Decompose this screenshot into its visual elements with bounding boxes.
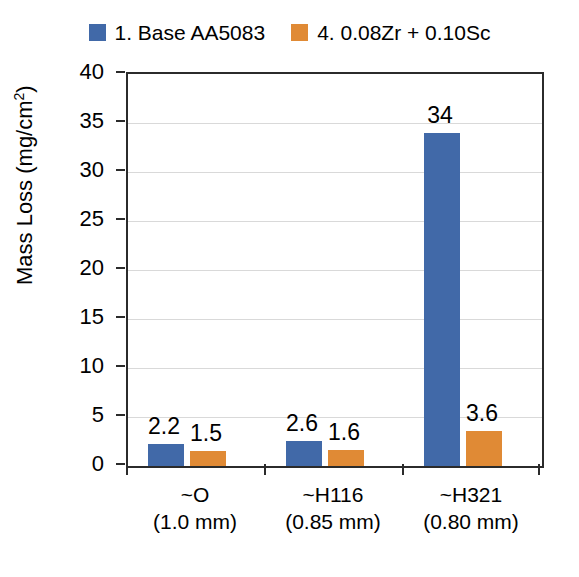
y-tick-mark [116,169,125,171]
y-tick-mark [116,463,125,465]
bar [148,444,184,466]
gridline [128,221,542,222]
y-tick-label: 0 [56,453,104,475]
x-axis-categories: ~O(1.0 mm)~H116(0.85 mm)~H321(0.80 mm) [126,481,540,535]
y-tick-label: 30 [56,159,104,181]
gridline [128,319,542,320]
x-category-name: ~O [126,481,264,508]
y-tick-label: 35 [56,110,104,132]
y-axis-title-tail: ) [12,85,37,92]
x-category-label: ~H116(0.85 mm) [264,481,402,535]
gridline [128,368,542,369]
plot-area [126,72,544,468]
y-tick-mark [116,218,125,220]
y-tick-label: 20 [56,257,104,279]
y-tick-mark [116,267,125,269]
gridline [128,270,542,271]
x-category-label: ~H321(0.80 mm) [402,481,540,535]
y-tick-mark [116,414,125,416]
legend-swatch-icon-series-0 [89,24,106,41]
bar-chart: 1. Base AA5083 4. 0.08Zr + 0.10Sc Mass L… [0,0,579,577]
legend-label-series-0: 1. Base AA5083 [115,22,266,43]
y-axis-title-superscript: 2 [11,93,27,101]
legend-swatch-icon-series-1 [291,24,308,41]
y-tick-mark [116,71,125,73]
x-axis-ticks [126,464,540,476]
gridlines [128,74,542,466]
x-category-sublabel: (0.80 mm) [402,508,540,535]
bar [286,441,322,466]
x-category-name: ~H321 [402,481,540,508]
y-tick-label: 5 [56,404,104,426]
y-tick-mark [116,365,125,367]
x-category-sublabel: (1.0 mm) [126,508,264,535]
y-tick-label: 10 [56,355,104,377]
legend-label-series-1: 4. 0.08Zr + 0.10Sc [317,22,490,43]
y-tick-label: 15 [56,306,104,328]
gridline [128,417,542,418]
legend-entry-series-0: 1. Base AA5083 [89,22,266,43]
y-tick-label: 40 [56,61,104,83]
y-tick-mark [116,316,125,318]
gridline [128,123,542,124]
x-category-name: ~H116 [264,481,402,508]
gridline [128,172,542,173]
x-tick-mark [538,464,540,475]
y-tick-mark [116,120,125,122]
x-category-sublabel: (0.85 mm) [264,508,402,535]
x-tick-mark [264,464,266,475]
y-axis-title-base: Mass Loss (mg/cm [12,100,37,285]
y-tick-label: 25 [56,208,104,230]
legend-entry-series-1: 4. 0.08Zr + 0.10Sc [291,22,490,43]
x-tick-mark [402,464,404,475]
y-axis-title: Mass Loss (mg/cm2) [7,0,37,375]
bar [466,431,502,466]
x-category-label: ~O(1.0 mm) [126,481,264,535]
bar [424,133,460,466]
chart-legend: 1. Base AA5083 4. 0.08Zr + 0.10Sc [0,22,579,43]
x-tick-mark [126,464,128,475]
